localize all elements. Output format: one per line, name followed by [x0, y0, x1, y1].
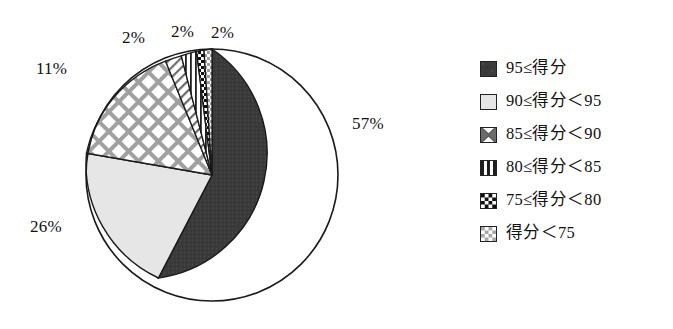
legend-swatch-vertical-bars-icon: [480, 160, 497, 176]
legend-label: 95≤得分: [506, 60, 567, 77]
legend-label: 得分＜75: [506, 225, 575, 242]
legend-swatch-light-checker-icon: [480, 226, 497, 242]
pie-label-80-to-85: 2%: [171, 23, 194, 40]
legend: 95≤得分 90≤得分＜95 85≤得分＜90: [480, 52, 670, 250]
legend-label: 85≤得分＜90: [506, 126, 601, 143]
pie-label-95-and-above: 57%: [352, 115, 384, 132]
legend-item-below-75[interactable]: 得分＜75: [480, 217, 670, 250]
legend-label: 75≤得分＜80: [506, 192, 601, 209]
pie-chart-figure: 57% 26% 11% 2% 2% 2% 95≤得分: [0, 0, 673, 329]
legend-item-80-to-85[interactable]: 80≤得分＜85: [480, 151, 670, 184]
legend-swatch-checkerboard-icon: [480, 193, 497, 209]
pie-label-85-to-90: 2%: [122, 29, 145, 46]
pie-label-90-to-95: 26%: [30, 218, 62, 235]
legend-item-90-to-95[interactable]: 90≤得分＜95: [480, 85, 670, 118]
legend-item-85-to-90[interactable]: 85≤得分＜90: [480, 118, 670, 151]
pie-label-below-75: 11%: [36, 60, 67, 77]
legend-label: 80≤得分＜85: [506, 159, 601, 176]
legend-label: 90≤得分＜95: [506, 93, 601, 110]
pie-chart-plot-area: 57% 26% 11% 2% 2% 2%: [0, 0, 440, 329]
pie-chart-svg: [0, 0, 440, 329]
legend-swatch-solid-light-icon: [480, 94, 497, 110]
legend-item-75-to-80[interactable]: 75≤得分＜80: [480, 184, 670, 217]
legend-swatch-solid-dark-icon: [480, 61, 497, 77]
legend-item-95-and-above[interactable]: 95≤得分: [480, 52, 670, 85]
pie-label-75-to-80: 2%: [211, 24, 234, 41]
legend-swatch-diagonal-hatch-icon: [480, 127, 497, 143]
